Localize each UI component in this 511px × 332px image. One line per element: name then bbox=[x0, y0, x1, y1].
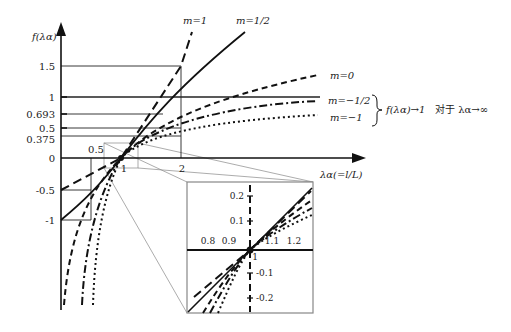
svg-text:1: 1 bbox=[252, 252, 258, 262]
label-limit: f(λα)→1 bbox=[385, 104, 425, 115]
svg-text:0.2: 0.2 bbox=[230, 191, 244, 201]
svg-text:0.5: 0.5 bbox=[88, 144, 104, 155]
brace-icon bbox=[372, 95, 382, 126]
x-tick-labels: 0.5 1 2 bbox=[88, 144, 185, 174]
x-axis-label: λα(=l/L) bbox=[319, 169, 363, 180]
svg-text:1: 1 bbox=[121, 163, 127, 174]
svg-text:0: 0 bbox=[49, 153, 55, 164]
label-m1: m=1 bbox=[183, 15, 207, 26]
chart-canvas: 1.5 1 0.693 0.5 0.375 0 -0.5 -1 0.5 1 2 … bbox=[0, 0, 511, 332]
x-axis-arrow-icon bbox=[352, 153, 366, 163]
label-m-half: m=1/2 bbox=[236, 15, 270, 26]
svg-text:-0.1: -0.1 bbox=[256, 268, 273, 278]
svg-text:1: 1 bbox=[49, 92, 55, 103]
svg-text:0.5: 0.5 bbox=[39, 123, 55, 134]
label-for: 对于 λα→∞ bbox=[435, 103, 488, 115]
label-m0: m=0 bbox=[330, 70, 355, 81]
y-tick-labels: 1.5 1 0.693 0.5 0.375 0 -0.5 -1 bbox=[26, 61, 55, 226]
svg-text:1.5: 1.5 bbox=[39, 61, 55, 72]
svg-text:1.2: 1.2 bbox=[287, 236, 301, 246]
svg-text:1.1: 1.1 bbox=[265, 236, 279, 246]
intersection-point bbox=[118, 155, 124, 161]
svg-text:0.375: 0.375 bbox=[26, 134, 55, 145]
svg-text:-0.2: -0.2 bbox=[256, 293, 273, 303]
svg-text:0.693: 0.693 bbox=[26, 109, 55, 120]
y-axis-arrow-icon bbox=[56, 22, 66, 36]
svg-text:0.9: 0.9 bbox=[222, 236, 237, 246]
inset-plot: 0.2 0.1 -0.1 -0.2 0.8 0.9 1 1.1 1.2 bbox=[187, 182, 313, 313]
y-axis-label: f(λα) bbox=[31, 31, 57, 42]
svg-text:2: 2 bbox=[179, 163, 185, 174]
svg-text:0.1: 0.1 bbox=[230, 216, 244, 226]
svg-text:0.8: 0.8 bbox=[201, 236, 216, 246]
label-m-neg1: m=−1 bbox=[330, 112, 363, 123]
label-m-neg-half: m=−1/2 bbox=[328, 95, 370, 106]
y-ticks bbox=[61, 97, 67, 128]
svg-text:-1: -1 bbox=[45, 215, 55, 226]
svg-text:-0.5: -0.5 bbox=[36, 185, 55, 196]
